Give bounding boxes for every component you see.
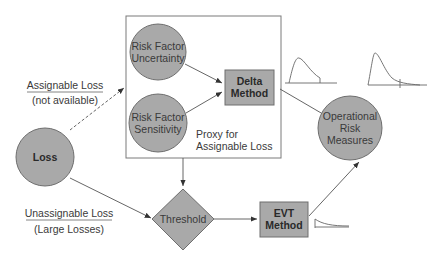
delta-distribution-icon: [285, 58, 337, 83]
evt-method-label: EVT Method: [260, 207, 308, 231]
loss-label: Loss: [16, 151, 74, 163]
threshold-label: Threshold: [152, 213, 214, 225]
unassignable-loss-sublabel: (Large Losses): [19, 223, 119, 235]
label-line: Proxy for: [196, 128, 280, 140]
label-line: Method: [260, 219, 308, 231]
label-line: Method: [225, 87, 274, 99]
edge-uncertainty-to-delta: [185, 64, 222, 83]
label-line: Assignable Loss: [196, 140, 280, 152]
operational-risk-measures-label: Operational Risk Measures: [318, 110, 382, 146]
label-line: Risk Factor: [128, 40, 188, 52]
assignable-loss-label: Assignable Loss: [20, 79, 110, 91]
label-line: Uncertainty: [128, 52, 188, 64]
label-line: Sensitivity: [128, 123, 188, 135]
proxy-group-label: Proxy for Assignable Loss: [196, 128, 280, 152]
evt-distribution-icon: [315, 219, 349, 228]
edge-evt-to-orm: [309, 162, 359, 216]
assignable-loss-sublabel: (not available): [20, 94, 110, 106]
label-line: Operational: [318, 110, 382, 122]
label-line: Risk Factor: [128, 111, 188, 123]
label-line: Delta: [225, 75, 274, 87]
unassignable-loss-label: Unassignable Loss: [19, 207, 119, 219]
delta-method-label: Delta Method: [225, 75, 274, 99]
edge-sensitivity-to-delta: [186, 92, 222, 113]
risk-factor-uncertainty-label: Risk Factor Uncertainty: [128, 40, 188, 64]
label-line: EVT: [260, 207, 308, 219]
risk-factor-sensitivity-label: Risk Factor Sensitivity: [128, 111, 188, 135]
orm-distribution-icon: [368, 53, 427, 88]
label-line: Risk: [318, 122, 382, 134]
label-line: Measures: [318, 134, 382, 146]
